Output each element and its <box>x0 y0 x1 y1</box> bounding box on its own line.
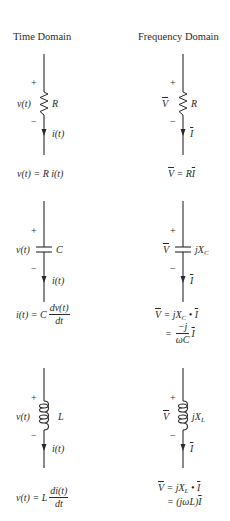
plus-sign: + <box>31 226 37 236</box>
equation: i(t) = Cdv(t)dt <box>16 303 70 326</box>
minus-sign: − <box>31 117 37 127</box>
current-label: i(t) <box>52 129 64 139</box>
element-label: C <box>56 245 63 255</box>
element-label: jXL <box>192 412 205 424</box>
current-arrow-icon <box>42 444 47 451</box>
plus-sign: + <box>31 78 37 88</box>
current-arrow-icon <box>42 129 47 136</box>
current-label: i(t) <box>52 276 64 286</box>
plus-sign: + <box>170 78 176 88</box>
minus-sign: − <box>31 431 37 441</box>
current-arrow-icon <box>181 129 186 136</box>
equation: V = RI <box>168 169 195 179</box>
voltage-label: v(t) <box>17 99 31 109</box>
equation-line-2: =−jωCI <box>165 322 195 345</box>
frequency-domain-header: Frequency Domain <box>138 32 219 43</box>
equation: v(t) = R i(t) <box>17 169 63 179</box>
resistor-icon <box>40 92 48 115</box>
voltage-label: v(t) <box>16 412 30 422</box>
time-domain-header: Time Domain <box>13 32 71 43</box>
equation-line-1: V = jXC • I <box>155 310 198 322</box>
equation-line-2: = (jωL)I <box>167 497 202 507</box>
voltage-label: V <box>163 412 169 422</box>
minus-sign: − <box>170 117 176 127</box>
minus-sign: − <box>31 264 37 274</box>
element-label: R <box>52 99 58 109</box>
plus-sign: + <box>31 393 37 403</box>
inductor-frequency-circuit <box>179 368 188 468</box>
inductor-icon <box>40 401 49 430</box>
current-arrow-icon <box>181 276 186 283</box>
element-label: jXC <box>195 245 209 257</box>
element-label: R <box>191 99 197 109</box>
voltage-label: v(t) <box>16 245 30 255</box>
capacitor-frequency-circuit <box>175 201 191 302</box>
plus-sign: + <box>170 226 176 236</box>
resistor-time-circuit <box>40 54 48 155</box>
plus-sign: + <box>170 393 176 403</box>
voltage-label: V <box>162 99 168 109</box>
resistor-icon <box>179 92 187 115</box>
current-label: I <box>190 276 193 286</box>
current-arrow-icon <box>181 444 186 451</box>
voltage-label: V <box>163 245 169 255</box>
equation-line-1: V = jXL • I <box>158 483 200 495</box>
current-arrow-icon <box>42 276 47 283</box>
resistor-frequency-circuit <box>179 54 187 155</box>
inductor-icon <box>179 401 188 430</box>
inductor-time-circuit <box>40 368 49 468</box>
current-label: I <box>190 129 193 139</box>
element-label: L <box>58 412 64 422</box>
minus-sign: − <box>170 431 176 441</box>
equation: v(t) = Ldi(t)dt <box>16 486 68 509</box>
minus-sign: − <box>170 264 176 274</box>
current-label: I <box>190 444 193 454</box>
capacitor-time-circuit <box>36 201 52 302</box>
current-label: i(t) <box>52 444 64 454</box>
